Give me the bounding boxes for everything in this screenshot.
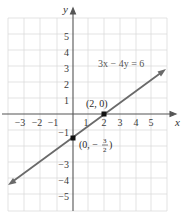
svg-text:−5: −5 bbox=[58, 191, 69, 202]
svg-text:−2: −2 bbox=[32, 117, 43, 128]
x-tick-labels: −3 −2 −1 1 2 3 4 5 bbox=[15, 117, 154, 128]
svg-text:5: 5 bbox=[149, 117, 154, 128]
svg-text:4: 4 bbox=[134, 117, 139, 128]
svg-text:−1: −1 bbox=[48, 117, 59, 128]
point-x-intercept-label: (2, 0) bbox=[86, 98, 108, 110]
svg-text:3: 3 bbox=[64, 63, 69, 74]
svg-text:−3: −3 bbox=[15, 117, 26, 128]
svg-text:3: 3 bbox=[103, 137, 107, 145]
svg-text:1: 1 bbox=[64, 95, 69, 106]
y-tick-labels: 5 4 3 2 1 −1 −3 −4 −5 bbox=[58, 31, 69, 202]
axes bbox=[2, 8, 176, 211]
svg-text:−1: −1 bbox=[58, 127, 69, 138]
svg-text:−4: −4 bbox=[58, 175, 69, 186]
point-y-intercept bbox=[71, 136, 76, 141]
y-axis-arrow-icon bbox=[71, 8, 76, 14]
svg-text:−3: −3 bbox=[58, 159, 69, 170]
point-y-intercept-label: (0, − 3 2 ) bbox=[79, 137, 112, 154]
x-axis-label: x bbox=[174, 116, 180, 128]
coordinate-plane: y x −3 −2 −1 1 2 3 4 5 5 4 3 2 1 −1 −3 −… bbox=[0, 0, 183, 222]
svg-text:5: 5 bbox=[64, 31, 69, 42]
y-axis-label: y bbox=[62, 3, 68, 15]
svg-text:(0, −: (0, − bbox=[79, 139, 98, 151]
equation-label: 3x − 4y = 6 bbox=[98, 58, 144, 69]
svg-text:): ) bbox=[109, 139, 112, 151]
svg-text:2: 2 bbox=[103, 146, 107, 154]
svg-text:3: 3 bbox=[118, 117, 123, 128]
svg-text:2: 2 bbox=[64, 79, 69, 90]
point-x-intercept bbox=[102, 112, 107, 117]
svg-text:2: 2 bbox=[102, 117, 107, 128]
svg-text:4: 4 bbox=[64, 47, 69, 58]
